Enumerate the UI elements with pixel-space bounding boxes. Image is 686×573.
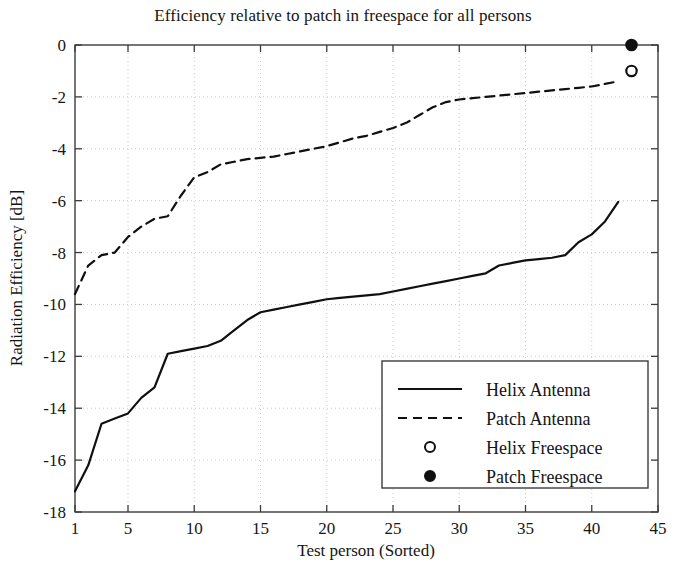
marker-patch-freespace [626,40,636,50]
y-tick-label: -2 [52,88,66,107]
x-tick-label: 45 [650,519,667,538]
legend-label-helix-antenna: Helix Antenna [486,380,590,400]
plot-canvas: 1510152025303540450-2-4-6-8-10-12-14-16-… [0,0,686,573]
legend-label-patch-freespace: Patch Freespace [486,467,602,487]
x-tick-label: 10 [186,519,203,538]
chart-figure: Efficiency relative to patch in freespac… [0,0,686,573]
x-tick-label: 15 [252,519,269,538]
y-tick-label: -4 [52,140,67,159]
y-tick-label: -6 [52,192,66,211]
data-points-layer [626,40,636,76]
x-tick-label: 1 [71,519,80,538]
x-tick-label: 5 [124,519,133,538]
y-tick-label: -10 [43,295,66,314]
y-tick-label: -18 [43,503,66,522]
legend-swatch-patch-freespace [425,471,435,481]
series-line-patch-antenna [75,81,618,294]
legend-swatch-helix-freespace [425,442,435,452]
x-tick-label: 30 [451,519,468,538]
legend-label-helix-freespace: Helix Freespace [486,438,602,458]
y-tick-label: 0 [58,36,67,55]
y-tick-label: -8 [52,244,66,263]
x-tick-label: 20 [318,519,335,538]
x-tick-label: 40 [583,519,600,538]
legend-label-patch-antenna: Patch Antenna [486,409,590,429]
x-axis-title: Test person (Sorted) [297,541,435,560]
chart-legend[interactable]: Helix AntennaPatch AntennaHelix Freespac… [382,361,648,488]
marker-helix-freespace [626,66,636,76]
x-tick-label: 35 [517,519,534,538]
x-tick-label: 25 [385,519,402,538]
y-tick-label: -16 [43,451,66,470]
y-tick-label: -14 [43,399,66,418]
y-axis-title: Radiation Efficiency [dB] [7,190,26,366]
y-tick-label: -12 [43,347,66,366]
